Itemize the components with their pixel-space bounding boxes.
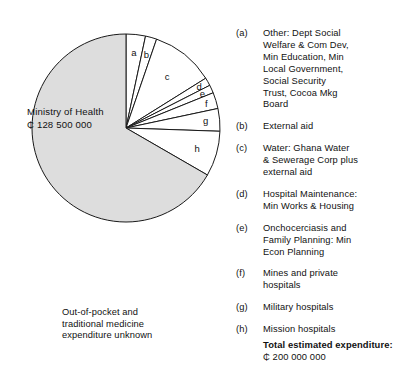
legend-text: Water: Ghana Water & Sewerage Corp plus … (263, 143, 405, 179)
pie-slice-label-a: a (131, 47, 137, 58)
pie-slice-label-h: h (194, 143, 199, 154)
legend-text: Hospital Maintenance: Min Works & Housin… (263, 189, 405, 213)
pie-slice-label-g: g (203, 115, 208, 126)
legend-text: External aid (263, 121, 405, 133)
footnote-line-1: Out-of-pocket and (62, 307, 152, 319)
legend-text: Mines and private hospitals (263, 268, 405, 292)
legend-text: Mission hospitals (263, 324, 405, 336)
footnote-line-3: expenditure unknown (62, 330, 152, 342)
pie-slice-label-b: b (144, 49, 149, 60)
legend-item-f: (f)Mines and private hospitals (236, 268, 405, 292)
legend-key: (b) (236, 121, 263, 133)
legend-text: Onchocerciasis and Family Planning: Min … (263, 223, 405, 259)
pie-footnote: Out-of-pocket and traditional medicine e… (62, 307, 152, 342)
pie-center-label: Ministry of Health ₵ 128 500 000 (27, 106, 123, 131)
legend-key: (c) (236, 143, 263, 155)
total-expenditure-value: ₵ 200 000 000 (263, 351, 405, 363)
legend-key: (g) (236, 302, 263, 314)
legend-text: Military hospitals (263, 302, 405, 314)
legend-key: (e) (236, 223, 263, 235)
legend-item-b: (b)External aid (236, 121, 405, 133)
footnote-line-2: traditional medicine (62, 319, 152, 331)
legend-text: Other: Dept Social Welfare & Com Dev, Mi… (263, 28, 405, 111)
legend-key: (h) (236, 324, 263, 336)
legend-panel: (a)Other: Dept Social Welfare & Com Dev,… (236, 0, 405, 375)
pie-slice-label-f: f (205, 98, 208, 109)
total-expenditure-block: Total estimated expenditure: ₵ 200 000 0… (263, 339, 405, 363)
legend-item-e: (e)Onchocerciasis and Family Planning: M… (236, 223, 405, 259)
legend-item-d: (d)Hospital Maintenance: Min Works & Hou… (236, 189, 405, 213)
legend-item-h: (h)Mission hospitals (236, 324, 405, 336)
total-expenditure-label: Total estimated expenditure: (263, 339, 405, 351)
pie-chart-panel: abcdefgh Ministry of Health ₵ 128 500 00… (0, 0, 235, 375)
legend-item-a: (a)Other: Dept Social Welfare & Com Dev,… (236, 28, 405, 111)
pie-slice-label-c: c (165, 71, 170, 82)
legend-key: (f) (236, 268, 263, 280)
ministry-amount: ₵ 128 500 000 (27, 119, 123, 132)
legend-item-c: (c)Water: Ghana Water & Sewerage Corp pl… (236, 143, 405, 179)
legend-key: (a) (236, 28, 263, 40)
legend-key: (d) (236, 189, 263, 201)
ministry-name: Ministry of Health (27, 106, 123, 119)
legend-item-g: (g)Military hospitals (236, 302, 405, 314)
